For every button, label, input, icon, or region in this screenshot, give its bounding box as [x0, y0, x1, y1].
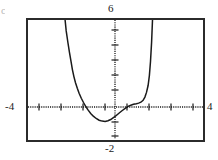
corner-artifact-mark: c [1, 4, 5, 16]
y-axis [112, 20, 119, 139]
label-ymax: 6 [108, 3, 114, 14]
label-xmax: 4 [207, 101, 213, 112]
plot-area [26, 18, 205, 142]
label-ymin: -2 [105, 143, 114, 154]
label-xmin: -4 [5, 101, 14, 112]
curve-path [65, 20, 152, 121]
calculator-graph-figure: c [0, 0, 218, 160]
